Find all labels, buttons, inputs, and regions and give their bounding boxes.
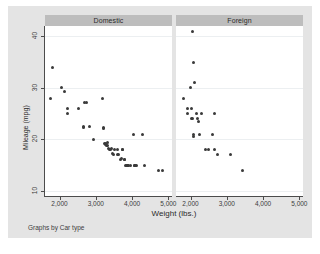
- data-point: [195, 112, 198, 115]
- data-point: [191, 117, 194, 120]
- data-point: [192, 61, 195, 64]
- data-point: [116, 148, 119, 151]
- data-point: [85, 101, 88, 104]
- data-point: [193, 81, 196, 84]
- data-point: [198, 133, 201, 136]
- data-point: [213, 112, 216, 115]
- data-point: [132, 133, 135, 136]
- gridline-y-10: [176, 191, 303, 192]
- x-tick-label-5000: 5,000: [285, 200, 313, 207]
- data-point: [182, 97, 185, 100]
- data-point: [213, 148, 216, 151]
- data-point: [92, 138, 95, 141]
- x-axis-line-domestic: [45, 196, 172, 197]
- data-point: [117, 153, 120, 156]
- gridline-y-10: [45, 191, 172, 192]
- x-tick-label-2000: 2,000: [177, 200, 205, 207]
- data-point: [60, 86, 63, 89]
- data-point: [112, 153, 115, 156]
- data-point: [190, 107, 193, 110]
- y-tick-mark-20: [41, 139, 44, 140]
- panel-header-foreign: Foreign: [176, 15, 303, 26]
- data-point: [143, 164, 146, 167]
- data-point: [129, 164, 132, 167]
- data-point: [229, 153, 232, 156]
- gridline-y-20: [45, 139, 172, 140]
- data-point: [141, 133, 144, 136]
- y-tick-mark-10: [41, 191, 44, 192]
- y-axis-line: [44, 26, 45, 197]
- gridline-y-20: [176, 139, 303, 140]
- data-point: [135, 164, 138, 167]
- gridline-y-40: [176, 36, 303, 37]
- x-axis-title: Weight (lbs.): [45, 209, 303, 218]
- data-point: [192, 135, 195, 138]
- data-point: [200, 112, 203, 115]
- data-point: [101, 97, 104, 100]
- data-point: [121, 148, 124, 151]
- data-point: [123, 158, 126, 161]
- plot-area-domestic: [45, 26, 172, 196]
- plot-area-foreign: [176, 26, 303, 196]
- data-point: [241, 169, 244, 172]
- data-point: [66, 107, 69, 110]
- data-point: [186, 107, 189, 110]
- x-axis-line-foreign: [176, 196, 303, 197]
- data-point: [66, 112, 69, 115]
- data-point: [63, 90, 66, 93]
- data-point: [191, 30, 194, 33]
- x-tick-label-4000: 4,000: [249, 200, 277, 207]
- data-point: [211, 133, 214, 136]
- graph-note: Graphs by Car type: [28, 224, 84, 231]
- data-point: [189, 86, 192, 89]
- data-point: [51, 66, 54, 69]
- data-point: [197, 120, 200, 123]
- y-tick-label-30: 30: [31, 80, 38, 94]
- data-point: [216, 153, 219, 156]
- data-point: [102, 127, 105, 130]
- data-point: [77, 107, 80, 110]
- data-point: [157, 169, 160, 172]
- gridline-y-40: [45, 36, 172, 37]
- y-tick-label-20: 20: [31, 132, 38, 146]
- panel-header-domestic: Domestic: [45, 15, 172, 26]
- x-tick-label-4000: 4,000: [118, 200, 146, 207]
- y-tick-label-40: 40: [31, 29, 38, 43]
- y-tick-label-10: 10: [31, 183, 38, 197]
- gridline-y-30: [176, 88, 303, 89]
- x-tick-label-3000: 3,000: [213, 200, 241, 207]
- data-point: [49, 97, 52, 100]
- data-point: [88, 125, 91, 128]
- y-tick-mark-40: [41, 36, 44, 37]
- data-point: [82, 126, 85, 129]
- gridline-y-30: [45, 88, 172, 89]
- chart-screenshot: Domestic Foreign 102030402,0003,0004,000…: [0, 0, 320, 254]
- y-axis-title: Mileage (mpg): [22, 105, 29, 150]
- x-tick-label-3000: 3,000: [82, 200, 110, 207]
- data-point: [161, 169, 164, 172]
- data-point: [186, 112, 189, 115]
- data-point: [207, 148, 210, 151]
- y-tick-mark-30: [41, 88, 44, 89]
- x-tick-label-2000: 2,000: [46, 200, 74, 207]
